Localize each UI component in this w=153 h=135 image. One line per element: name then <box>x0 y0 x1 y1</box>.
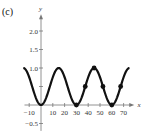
svg-text:70: 70 <box>120 109 128 117</box>
svg-text:10: 10 <box>49 109 57 117</box>
svg-text:60: 60 <box>108 109 116 117</box>
svg-text:40: 40 <box>85 109 93 117</box>
svg-text:30: 30 <box>73 109 81 117</box>
svg-text:x: x <box>136 101 141 109</box>
panel-label: (c) <box>2 6 13 18</box>
svg-text:20: 20 <box>61 109 69 117</box>
svg-text:y: y <box>38 5 43 13</box>
sinusoid-chart: (c) xy−1010203040506070−0.51.01.52.0 <box>0 0 153 135</box>
svg-text:50: 50 <box>97 109 105 117</box>
svg-text:1.0: 1.0 <box>29 65 38 73</box>
svg-text:−0.5: −0.5 <box>25 120 38 128</box>
axes: xy−1010203040506070−0.51.01.52.0 <box>24 5 142 131</box>
svg-text:1.5: 1.5 <box>29 46 38 54</box>
svg-text:2.0: 2.0 <box>29 28 38 36</box>
svg-text:−10: −10 <box>24 109 35 117</box>
